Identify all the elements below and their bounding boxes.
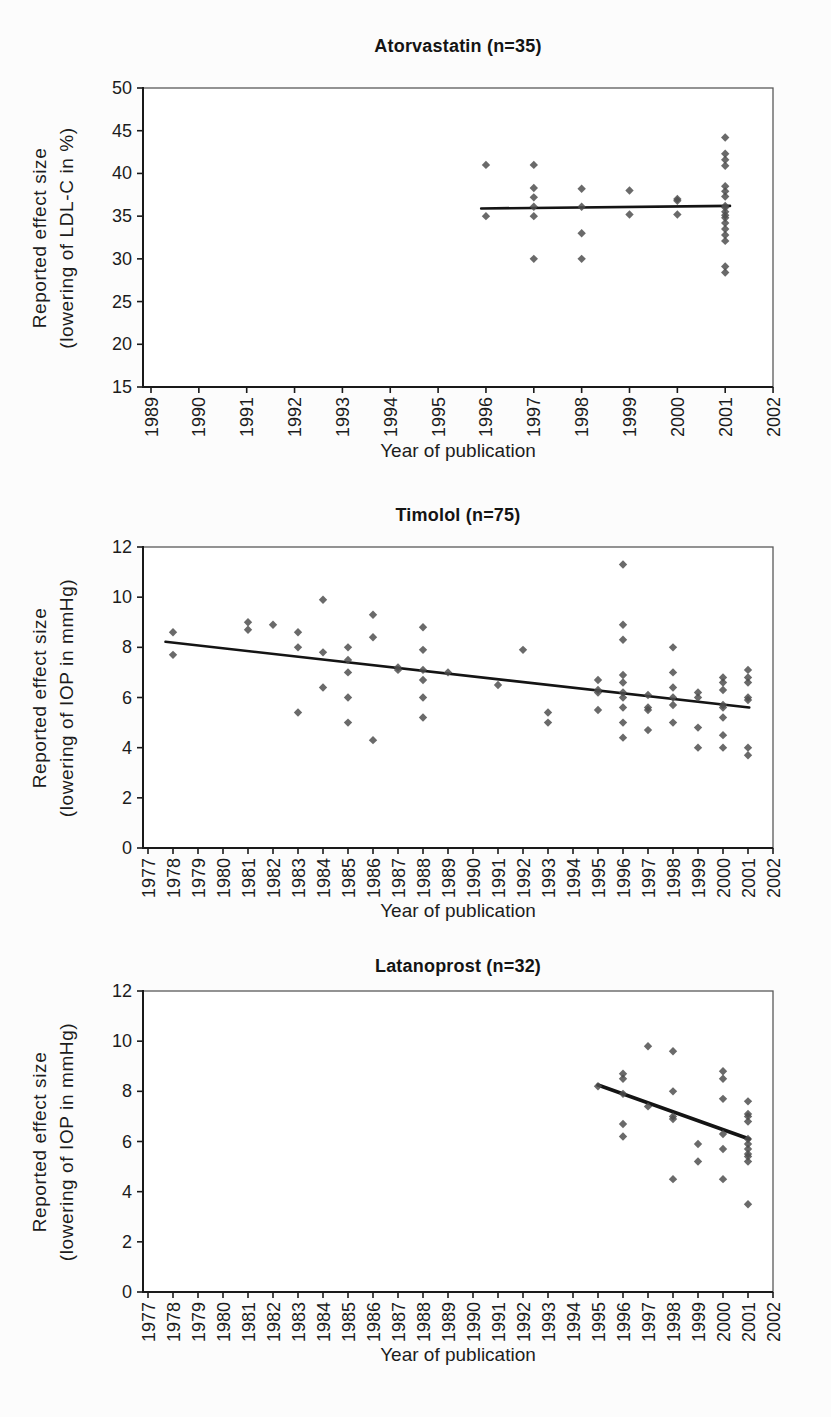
x-tick-label: 1982 [264,858,284,898]
x-tick-label: 1996 [476,397,496,437]
y-tick-label: 40 [112,163,132,183]
x-tick-label: 1989 [439,858,459,898]
x-tick-label: 1993 [539,1302,559,1342]
x-tick-label: 1980 [214,1302,234,1342]
y-tick-label: 45 [112,121,132,141]
x-tick-label: 1979 [189,1302,209,1342]
y-tick-label: 50 [112,78,132,98]
x-tick-label: 1994 [564,858,584,898]
x-tick-label: 1990 [464,1302,484,1342]
x-tick-label: 1986 [364,1302,384,1342]
plot-timolol: 0246810121977197819791980198119821983198… [112,537,784,898]
x-tick-label: 1988 [414,1302,434,1342]
plot-border [143,547,773,848]
x-tick-label: 1980 [214,858,234,898]
x-tick-label: 1981 [239,858,259,898]
x-tick-label: 1988 [414,858,434,898]
x-tick-label: 1978 [164,1302,184,1342]
x-tick-label: 1996 [614,1302,634,1342]
plot-latanoprost: 0246810121977197819791980198119821983198… [112,981,784,1342]
x-tick-label: 1984 [314,858,334,898]
y-tick-label: 10 [112,587,132,607]
x-tick-label: 1983 [289,858,309,898]
x-tick-label: 1986 [364,858,384,898]
y-tick-label: 35 [112,206,132,226]
y-tick-label: 20 [112,334,132,354]
x-tick-label: 2001 [739,1302,759,1342]
x-tick-label: 1983 [289,1302,309,1342]
y-tick-label: 0 [122,838,132,858]
x-tick-label: 1987 [389,1302,409,1342]
x-tick-label: 1995 [589,1302,609,1342]
x-tick-label: 2001 [716,397,736,437]
y-tick-label: 12 [112,981,132,1001]
x-tick-label: 1990 [464,858,484,898]
x-tick-label: 1981 [239,1302,259,1342]
x-tick-label: 1992 [514,858,534,898]
x-tick-label: 2002 [764,1302,784,1342]
x-tick-label: 1999 [620,397,640,437]
x-tick-label: 1997 [639,1302,659,1342]
x-tick-label: 1979 [189,858,209,898]
plot-border [143,991,773,1292]
y-tick-label: 15 [112,377,132,397]
x-tick-label: 1982 [264,1302,284,1342]
scatter-plots-canvas: 1520253035404550198919901991199219931994… [0,0,831,1417]
plot-border [143,88,773,387]
x-tick-label: 1998 [664,1302,684,1342]
y-tick-label: 2 [122,788,132,808]
x-tick-label: 1987 [389,858,409,898]
x-tick-label: 1977 [139,1302,159,1342]
x-tick-label: 2000 [714,858,734,898]
x-tick-label: 1995 [589,858,609,898]
x-tick-label: 1991 [489,1302,509,1342]
x-tick-label: 1992 [285,397,305,437]
y-tick-label: 2 [122,1232,132,1252]
x-tick-label: 2000 [668,397,688,437]
y-tick-label: 8 [122,1081,132,1101]
x-tick-label: 1978 [164,858,184,898]
x-tick-label: 1991 [237,397,257,437]
x-tick-label: 1989 [142,397,162,437]
x-tick-label: 1985 [339,858,359,898]
x-tick-label: 1996 [614,858,634,898]
x-tick-label: 1992 [514,1302,534,1342]
x-tick-label: 1985 [339,1302,359,1342]
x-tick-label: 1997 [524,397,544,437]
plot-atorvastatin: 1520253035404550198919901991199219931994… [112,78,784,437]
x-tick-label: 2002 [764,858,784,898]
y-tick-label: 4 [122,1182,132,1202]
x-tick-label: 1991 [489,858,509,898]
x-tick-label: 2002 [764,397,784,437]
x-tick-label: 1995 [429,397,449,437]
x-tick-label: 1993 [539,858,559,898]
y-tick-label: 0 [122,1282,132,1302]
x-tick-label: 1993 [333,397,353,437]
x-tick-label: 1984 [314,1302,334,1342]
x-tick-label: 1999 [689,1302,709,1342]
x-tick-label: 1990 [189,397,209,437]
y-tick-label: 25 [112,292,132,312]
x-tick-label: 1999 [689,858,709,898]
y-tick-label: 6 [122,1132,132,1152]
y-tick-label: 12 [112,537,132,557]
y-tick-label: 10 [112,1031,132,1051]
x-tick-label: 1977 [139,858,159,898]
y-tick-label: 6 [122,688,132,708]
y-tick-label: 30 [112,249,132,269]
y-tick-label: 8 [122,637,132,657]
x-tick-label: 1994 [564,1302,584,1342]
x-tick-label: 2000 [714,1302,734,1342]
x-tick-label: 1994 [381,397,401,437]
x-tick-label: 1997 [639,858,659,898]
x-tick-label: 1998 [664,858,684,898]
x-tick-label: 2001 [739,858,759,898]
y-tick-label: 4 [122,738,132,758]
x-tick-label: 1989 [439,1302,459,1342]
x-tick-label: 1998 [572,397,592,437]
